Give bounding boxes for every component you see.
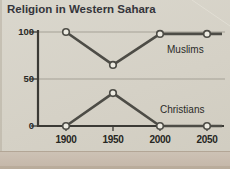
x-tick-label-2000: 2000	[142, 134, 178, 145]
muslims-marker-2000	[157, 31, 164, 38]
x-tick-label-1950: 1950	[95, 134, 131, 145]
paper-crease	[192, 0, 230, 26]
x-tick-label-1900: 1900	[48, 134, 84, 145]
y-tick-label-50: 50	[8, 74, 34, 84]
series-label-muslims: Muslims	[167, 44, 204, 55]
series-label-christians: Christians	[160, 104, 204, 115]
y-tick-label-0: 0	[8, 121, 34, 131]
y-tick-label-100: 100	[8, 27, 34, 37]
muslims-marker-2050	[204, 31, 211, 38]
page-bottom-shadow	[0, 166, 230, 169]
muslims-marker-1900	[63, 29, 70, 36]
christians-marker-1950	[110, 90, 117, 97]
christians-marker-2000	[157, 123, 164, 130]
muslims-marker-1950	[110, 62, 117, 69]
christians-marker-2050	[204, 123, 211, 130]
chart-panel: Religion in Western Sahara 100 50 0 1900…	[0, 0, 230, 169]
x-tick-label-2050: 2050	[189, 134, 225, 145]
christians-marker-1900	[63, 123, 70, 130]
